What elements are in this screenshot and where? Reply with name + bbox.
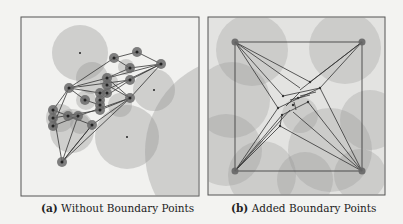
caption-a-text: Without Boundary Points bbox=[61, 202, 194, 214]
caption-b-label: (b) bbox=[231, 202, 248, 214]
subfigure-a-plot bbox=[0, 0, 403, 224]
caption-b: (b) Added Boundary Points bbox=[231, 202, 376, 214]
subfigure-b bbox=[190, 12, 400, 209]
caption-b-text: Added Boundary Points bbox=[252, 202, 377, 214]
caption-a: (a) Without Boundary Points bbox=[41, 202, 194, 214]
caption-a-label: (a) bbox=[41, 202, 58, 214]
